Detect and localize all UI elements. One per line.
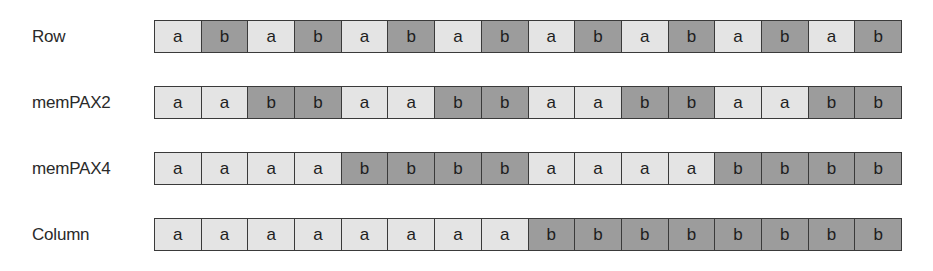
- cell-b: b: [855, 87, 901, 118]
- cell-b: b: [669, 219, 716, 250]
- cell-b: b: [435, 87, 482, 118]
- layout-row-row: Rowabababababababab: [0, 20, 933, 54]
- cell-a: a: [295, 219, 342, 250]
- row-label: Row: [32, 20, 65, 54]
- cell-b: b: [575, 219, 622, 250]
- layout-row-mempax4: memPAX4aaaabbbbaaaabbbb: [0, 152, 933, 186]
- cell-a: a: [202, 153, 249, 184]
- cell-a: a: [809, 21, 856, 52]
- cell-b: b: [622, 219, 669, 250]
- cell-a: a: [248, 21, 295, 52]
- cell-a: a: [155, 21, 202, 52]
- cell-b: b: [762, 21, 809, 52]
- cell-b: b: [482, 87, 529, 118]
- row-label: Column: [32, 218, 89, 252]
- cell-b: b: [809, 153, 856, 184]
- cell-b: b: [855, 219, 901, 250]
- cell-a: a: [715, 21, 762, 52]
- cell-b: b: [529, 219, 576, 250]
- cell-b: b: [762, 153, 809, 184]
- cell-a: a: [435, 21, 482, 52]
- cell-a: a: [342, 21, 389, 52]
- cell-a: a: [435, 219, 482, 250]
- cell-strip: abababababababab: [154, 20, 902, 53]
- cell-strip: aaaaaaaabbbbbbbb: [154, 218, 902, 251]
- cell-b: b: [855, 153, 901, 184]
- layout-row-mempax2: memPAX2aabbaabbaabbaabb: [0, 86, 933, 120]
- cell-a: a: [622, 21, 669, 52]
- cell-b: b: [388, 153, 435, 184]
- cell-a: a: [482, 219, 529, 250]
- cell-b: b: [342, 153, 389, 184]
- cell-strip: aaaabbbbaaaabbbb: [154, 152, 902, 185]
- cell-b: b: [388, 21, 435, 52]
- cell-b: b: [809, 87, 856, 118]
- cell-b: b: [669, 21, 716, 52]
- cell-b: b: [435, 153, 482, 184]
- cell-b: b: [622, 87, 669, 118]
- cell-a: a: [155, 219, 202, 250]
- layout-row-column: Columnaaaaaaaabbbbbbbb: [0, 218, 933, 252]
- cell-b: b: [669, 87, 716, 118]
- cell-b: b: [248, 87, 295, 118]
- cell-a: a: [575, 153, 622, 184]
- cell-a: a: [202, 87, 249, 118]
- cell-a: a: [622, 153, 669, 184]
- cell-a: a: [529, 87, 576, 118]
- cell-a: a: [388, 87, 435, 118]
- cell-b: b: [202, 21, 249, 52]
- cell-b: b: [482, 153, 529, 184]
- cell-a: a: [529, 21, 576, 52]
- row-label: memPAX4: [32, 152, 111, 186]
- cell-b: b: [295, 21, 342, 52]
- cell-a: a: [715, 87, 762, 118]
- cell-a: a: [388, 219, 435, 250]
- cell-b: b: [715, 153, 762, 184]
- cell-a: a: [248, 219, 295, 250]
- cell-a: a: [248, 153, 295, 184]
- cell-b: b: [762, 219, 809, 250]
- cell-a: a: [762, 87, 809, 118]
- cell-a: a: [202, 219, 249, 250]
- cell-b: b: [809, 219, 856, 250]
- cell-b: b: [295, 87, 342, 118]
- cell-a: a: [575, 87, 622, 118]
- row-label: memPAX2: [32, 86, 111, 120]
- cell-strip: aabbaabbaabbaabb: [154, 86, 902, 119]
- cell-b: b: [575, 21, 622, 52]
- cell-a: a: [529, 153, 576, 184]
- cell-a: a: [295, 153, 342, 184]
- cell-b: b: [855, 21, 901, 52]
- cell-b: b: [715, 219, 762, 250]
- cell-b: b: [482, 21, 529, 52]
- cell-a: a: [155, 87, 202, 118]
- cell-a: a: [342, 87, 389, 118]
- cell-a: a: [155, 153, 202, 184]
- cell-a: a: [669, 153, 716, 184]
- cell-a: a: [342, 219, 389, 250]
